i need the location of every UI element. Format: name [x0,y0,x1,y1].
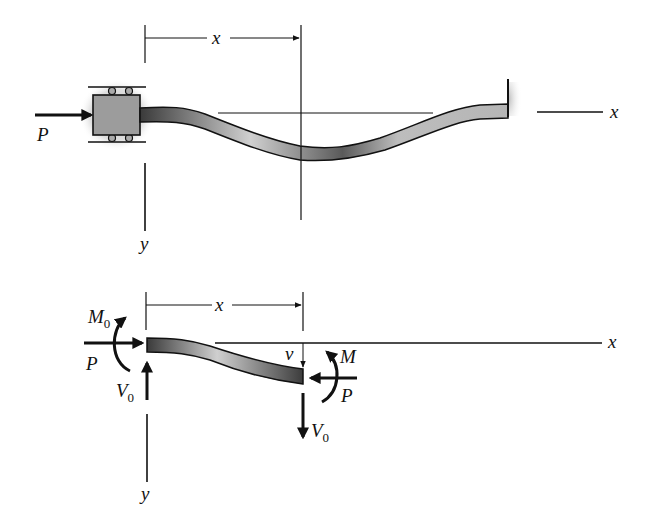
sliding-block [93,95,140,135]
right-moment-label-m: M [339,346,357,367]
wall-shadow [508,82,522,116]
left-shear-label: V0 [116,380,134,405]
deflection-label-v: v [285,343,294,364]
y-axis-label: y [138,233,149,254]
right-load-label-p: P [340,385,353,406]
top-figure: P x x y [35,25,619,254]
x-axis-label: x [609,101,619,122]
bottom-figure: x x v P M0 V0 y P M V0 [84,292,617,504]
dimension-label-x: x [214,294,224,315]
left-load-label-p: P [85,353,98,374]
right-shear-label: V0 [311,420,329,445]
column-segment [147,338,303,384]
left-moment-label: M0 [87,306,110,331]
y-axis-label: y [139,483,150,504]
load-label-p: P [36,124,49,145]
x-axis-label: x [607,331,617,352]
column-buckling-diagram: P x x y x x v P M0 [0,0,650,522]
dimension-label-x: x [211,27,221,48]
